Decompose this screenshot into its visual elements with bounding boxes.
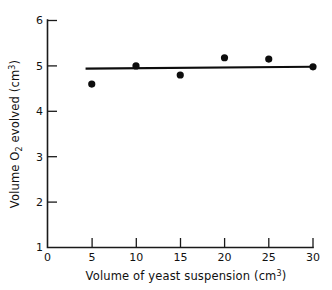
chart-figure: 6 5 4 3 2 1 0 5 10 15 20 25 30 Volume of…	[0, 0, 332, 290]
y-tick-label-5: 5	[36, 60, 43, 73]
y-tick-label-6: 6	[36, 14, 43, 27]
x-tick-label-5: 5	[89, 251, 96, 264]
data-point	[309, 63, 316, 70]
y-tick-label-1: 1	[36, 241, 43, 254]
x-axis-title: Volume of yeast suspension (cm3)	[86, 269, 287, 283]
y-axis-title-middle: evolved (cm	[8, 70, 22, 146]
x-axis-tick-labels: 0 5 10 15 20 25 30	[44, 251, 320, 264]
y-tick-label-2: 2	[36, 196, 43, 209]
x-tick-label-15: 15	[174, 251, 188, 264]
data-point	[88, 80, 95, 87]
data-point	[221, 54, 228, 61]
x-tick-label-10: 10	[129, 251, 143, 264]
data-points	[88, 54, 316, 88]
data-point	[132, 62, 139, 69]
x-axis-title-main: Volume of yeast suspension (cm	[86, 269, 277, 283]
y-tick-label-4: 4	[36, 105, 43, 118]
data-point	[177, 71, 184, 78]
y-axis-title: Volume O2 evolved (cm3)	[8, 60, 24, 208]
x-axis-ticks	[92, 238, 313, 248]
y-axis-ticks	[48, 21, 58, 203]
data-point	[265, 55, 272, 62]
y-axis-title-tail: )	[8, 60, 22, 65]
x-tick-label-25: 25	[262, 251, 276, 264]
trend-line	[86, 67, 313, 69]
plot-axes	[48, 20, 314, 248]
x-tick-label-0: 0	[44, 251, 51, 264]
x-axis-title-tail: )	[282, 269, 287, 283]
y-axis-title-lead: Volume O	[8, 151, 22, 208]
scatter-plot: 6 5 4 3 2 1 0 5 10 15 20 25 30 Volume of…	[0, 0, 332, 290]
y-tick-label-3: 3	[36, 151, 43, 164]
x-tick-label-20: 20	[218, 251, 232, 264]
y-axis-tick-labels: 6 5 4 3 2 1	[36, 14, 43, 254]
x-tick-label-30: 30	[306, 251, 320, 264]
